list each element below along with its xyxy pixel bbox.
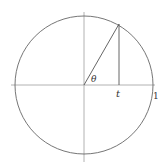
t-label: t xyxy=(116,88,121,99)
radius-line xyxy=(84,24,119,85)
theta-label: θ xyxy=(91,74,97,84)
unit-label: 1 xyxy=(153,91,159,101)
unit-circle-diagram: θ t 1 xyxy=(0,0,166,164)
